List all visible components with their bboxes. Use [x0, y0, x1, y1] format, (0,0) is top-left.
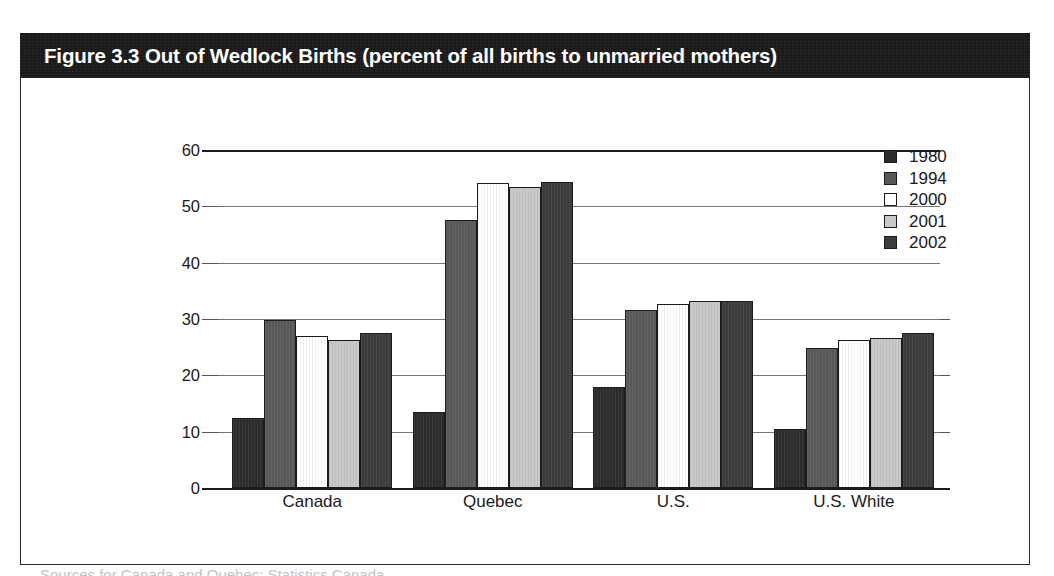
- bottom-caption: Sources for Canada and Quebec: Statistic…: [40, 566, 740, 576]
- figure-container: [20, 33, 1030, 565]
- figure-title: Figure 3.3 Out of Wedlock Births (percen…: [44, 44, 777, 68]
- figure-title-bar: Figure 3.3 Out of Wedlock Births (percen…: [20, 33, 1030, 78]
